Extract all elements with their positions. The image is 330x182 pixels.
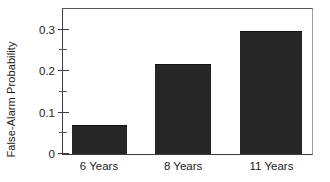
bar-2 — [155, 64, 211, 154]
x-axis-tick-label: 11 Years — [249, 160, 293, 172]
y-axis-tick-label: 0.2 — [39, 65, 55, 77]
y-axis-tick-minor — [59, 132, 67, 133]
bar-1 — [72, 125, 128, 154]
y-axis-tick-major — [58, 70, 69, 71]
plot-inner: 00.10.20.3 — [63, 9, 312, 154]
y-axis-tick-major — [58, 29, 69, 30]
bar-3 — [240, 31, 302, 154]
x-axis-tick-label: 8 Years — [164, 160, 202, 172]
y-axis-tick-label: 0.1 — [39, 107, 55, 119]
y-axis-tick-major — [58, 112, 69, 113]
bar-chart-figure: False-Alarm Probability 00.10.20.3 6 Yea… — [0, 0, 330, 182]
y-axis-tick-label: 0 — [49, 148, 55, 160]
plot-area: 00.10.20.3 — [62, 8, 313, 155]
y-axis-title: False-Alarm Probability — [0, 22, 22, 177]
y-axis-tick-minor — [59, 91, 67, 92]
x-axis-tick-label: 6 Years — [80, 160, 118, 172]
y-axis-tick-label: 0.3 — [39, 24, 55, 36]
y-axis-tick-minor — [59, 49, 67, 50]
y-axis-tick-major — [58, 153, 69, 154]
